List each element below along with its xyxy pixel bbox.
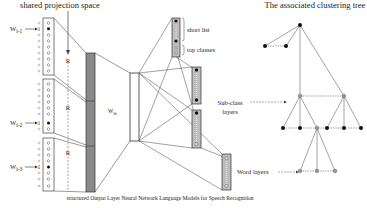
svg-text:1: 1 — [38, 164, 41, 170]
svg-text:1: 1 — [38, 26, 41, 32]
projection-arrow: R R R — [66, 11, 71, 190]
short-list-label: short list — [187, 26, 210, 33]
word-layer-box — [222, 154, 231, 190]
top-classes-label: top classes — [187, 46, 215, 53]
input-label-wi-1: Wi-1 — [10, 25, 38, 34]
clustering-tree — [265, 25, 361, 171]
input-label-wi-2: Wi-2 — [10, 119, 38, 128]
svg-text:Wi-1: Wi-1 — [10, 25, 23, 34]
subclass-label-2: layers — [222, 108, 238, 115]
subclass-box-2 — [192, 110, 201, 148]
shared-projection-title: shared projection space — [20, 0, 100, 10]
clustering-tree-title: The associated clustering tree — [265, 0, 366, 10]
weight-label-wih: Wih — [108, 108, 118, 116]
input-block-1: 1 — [38, 18, 54, 75]
svg-text:1: 1 — [38, 120, 41, 126]
r-label-3: R — [66, 149, 71, 156]
r-label-2: R — [66, 104, 71, 111]
subclass-arrow — [250, 101, 287, 104]
r-label-1: R — [66, 57, 71, 64]
svg-text:Wi-3: Wi-3 — [10, 163, 23, 172]
short-list-box — [172, 18, 184, 57]
input-block-2: 1 — [38, 79, 54, 133]
projection-to-hidden-lines — [95, 53, 130, 192]
hidden-to-output-lines — [139, 18, 224, 190]
subclass-label-1: Sub-class — [218, 99, 243, 106]
input-block-3: 1 — [38, 138, 54, 191]
diagram-canvas: shared projection space The associated c… — [0, 0, 367, 208]
hidden-layer — [130, 73, 139, 141]
word-layers-label: Word layers — [237, 168, 269, 175]
projection-layer — [86, 53, 95, 192]
word-layers-arrow — [278, 171, 299, 174]
subclass-box-1 — [192, 67, 201, 104]
svg-text:Wi-2: Wi-2 — [10, 119, 23, 128]
input-label-wi-3: Wi-3 — [10, 163, 38, 172]
figure-caption: structured Output Layer Neural Network L… — [66, 195, 253, 201]
